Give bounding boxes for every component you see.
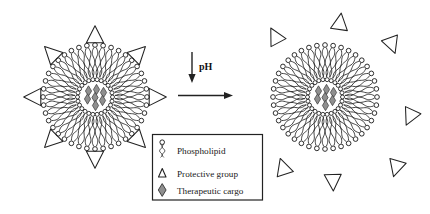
protective-group-triangle — [86, 26, 103, 43]
reaction-arrow-group: pH — [178, 52, 233, 99]
figure-canvas: pH Phospholipid Protective group Therape… — [0, 0, 430, 214]
micelle-ph-diagram: pH Phospholipid Protective group Therape… — [0, 0, 430, 214]
ph-label: pH — [199, 61, 213, 72]
deshielded-micelle — [271, 43, 380, 152]
protective-group-triangle — [86, 151, 103, 168]
intact-micelle — [24, 26, 167, 169]
ph-down-arrow-head — [188, 74, 195, 83]
protective-group-triangle-free — [385, 158, 406, 179]
legend-label-phospholipid: Phospholipid — [177, 146, 226, 156]
protective-group-triangle-free — [324, 174, 342, 191]
protective-group-triangle-free — [263, 24, 286, 47]
legend: Phospholipid Protective group Therapeuti… — [153, 135, 263, 201]
protective-group-triangle-free — [381, 35, 403, 56]
protective-group-triangle-free — [398, 107, 420, 129]
reaction-arrow-head — [224, 92, 233, 99]
protective-group-triangle — [149, 88, 166, 105]
protective-group-triangle-free — [331, 12, 350, 31]
protective-group-triangle — [24, 88, 41, 105]
legend-label-therapeutic-cargo: Therapeutic cargo — [177, 186, 244, 196]
protective-group-triangle-free — [272, 156, 293, 177]
legend-label-protective-group: Protective group — [177, 169, 238, 179]
